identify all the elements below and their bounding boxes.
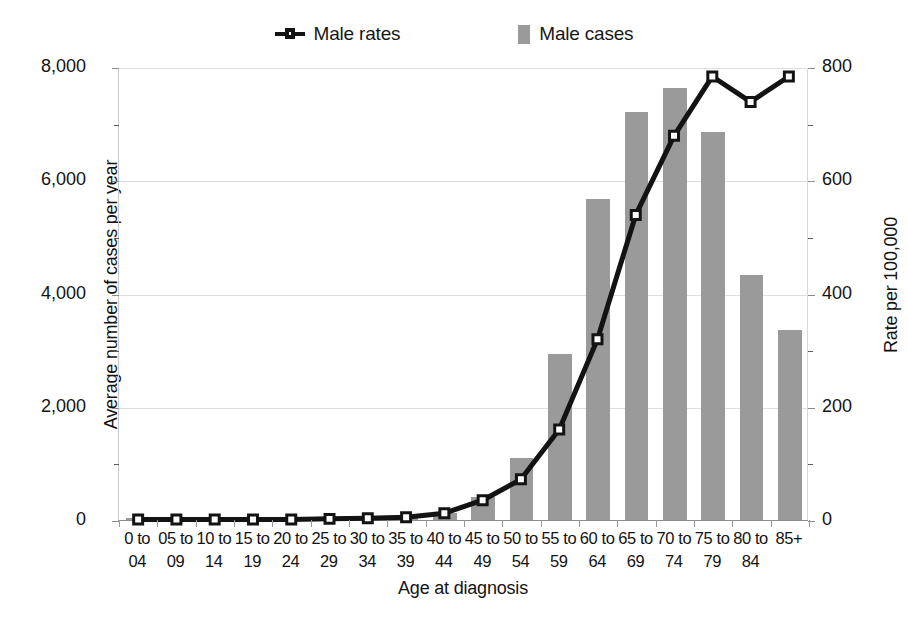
x-tickmark (541, 520, 542, 527)
y-axis-right-tick-label: 800 (822, 56, 852, 77)
y-tickmark-right (808, 408, 815, 409)
x-tick-label: 45 to49 (463, 527, 501, 573)
x-tickmark (349, 520, 350, 527)
x-tick-label: 10 to14 (195, 527, 233, 573)
x-tick-label: 25 to29 (310, 527, 348, 573)
x-tick-label-line1: 30 to (348, 527, 386, 550)
line-marker (172, 515, 181, 524)
x-tick-label: 65 to69 (616, 527, 654, 573)
x-tick-label-line1: 40 to (425, 527, 463, 550)
line-marker-icon (275, 27, 305, 41)
x-tick-label-line1: 80 to (731, 527, 769, 550)
y-tickmark-right (808, 521, 815, 522)
x-tick-label-line1: 60 to (578, 527, 616, 550)
x-tick-label-line1: 65 to (616, 527, 654, 550)
line-marker (478, 496, 487, 505)
x-tick-label-line1: 25 to (310, 527, 348, 550)
legend-label-male-cases: Male cases (539, 23, 633, 45)
y-axis-right-title: Rate per 100,000 (880, 120, 902, 450)
line-marker (670, 131, 679, 140)
legend-item-male-cases: Male cases (518, 23, 633, 45)
y-minor-tickmark-left (114, 238, 119, 239)
x-tick-label-line1: 55 to (540, 527, 578, 550)
x-tick-label-line1: 20 to (271, 527, 309, 550)
x-axis-tick-labels: 0 to0405 to0910 to1415 to1920 to2425 to2… (118, 527, 808, 575)
x-tick-label: 50 to54 (501, 527, 539, 573)
x-tick-label-line1: 10 to (195, 527, 233, 550)
x-tick-label-line2: 49 (463, 550, 501, 573)
y-tickmark-right (808, 295, 815, 296)
x-tickmark (426, 520, 427, 527)
x-tick-label-line2: 44 (425, 550, 463, 573)
x-tick-label-line1: 70 to (655, 527, 693, 550)
y-minor-tickmark-left (114, 351, 119, 352)
line-marker (708, 72, 717, 81)
y-axis-right-tick-label: 0 (822, 509, 832, 530)
x-tickmark (311, 520, 312, 527)
x-tick-label: 30 to34 (348, 527, 386, 573)
x-tickmark (272, 520, 273, 527)
line-marker (440, 509, 449, 518)
x-tick-label-line1: 05 to (156, 527, 194, 550)
y-minor-tickmark-right (808, 125, 813, 126)
x-tickmark (157, 520, 158, 527)
line-marker (248, 515, 257, 524)
x-tick-label-line2: 04 (118, 550, 156, 573)
x-tick-label-line1: 75 to (693, 527, 731, 550)
y-tickmark-right (808, 68, 815, 69)
x-tick-label-line1: 15 to (233, 527, 271, 550)
plot-area (118, 68, 808, 521)
x-tick-label-line1: 35 to (386, 527, 424, 550)
x-tickmark (196, 520, 197, 527)
legend-label-male-rates: Male rates (314, 23, 401, 45)
x-tickmark (656, 520, 657, 527)
y-tickmark-right (808, 181, 815, 182)
y-axis-right-tick-label: 400 (822, 283, 852, 304)
x-tickmark (387, 520, 388, 527)
y-minor-tickmark-right (808, 464, 813, 465)
x-tick-label-line2: 64 (578, 550, 616, 573)
line-marker (593, 335, 602, 344)
x-tickmark (617, 520, 618, 527)
x-tick-label-line2: 54 (501, 550, 539, 573)
line-marker (516, 475, 525, 484)
line-marker (363, 514, 372, 523)
x-tick-label-line2: 29 (310, 550, 348, 573)
x-tick-label-line2: 09 (156, 550, 194, 573)
y-minor-tickmark-left (114, 125, 119, 126)
line-path (138, 76, 789, 519)
x-tickmark (771, 520, 772, 527)
y-axis-right-tick-label: 600 (822, 169, 852, 190)
x-tickmark (234, 520, 235, 527)
x-tickmark (464, 520, 465, 527)
x-tick-label: 05 to09 (156, 527, 194, 573)
x-tick-label: 0 to04 (118, 527, 156, 573)
x-axis-title: Age at diagnosis (118, 578, 808, 599)
chart-legend: Male rates Male cases (0, 18, 908, 50)
x-tickmark (119, 520, 120, 527)
x-tick-label-line1: 0 to (118, 527, 156, 550)
y-tickmark-left (112, 408, 119, 409)
x-tick-label: 60 to64 (578, 527, 616, 573)
line-marker (402, 513, 411, 522)
x-tick-label: 35 to39 (386, 527, 424, 573)
y-tickmark-left (112, 181, 119, 182)
x-tick-label: 55 to59 (540, 527, 578, 573)
y-tickmark-left (112, 68, 119, 69)
line-marker (746, 97, 755, 106)
x-tick-label: 20 to24 (271, 527, 309, 573)
line-marker (325, 514, 334, 523)
x-tick-label-line2: 34 (348, 550, 386, 573)
x-tick-label-line1: 45 to (463, 527, 501, 550)
x-tick-label-line1: 50 to (501, 527, 539, 550)
y-axis-left-tick-label: 2,000 (41, 396, 86, 417)
line-marker (134, 515, 143, 524)
x-tickmark (694, 520, 695, 527)
x-tick-label-line2: 14 (195, 550, 233, 573)
square-swatch-icon (518, 25, 530, 44)
y-axis-left-tick-label: 8,000 (41, 56, 86, 77)
x-tickmark (502, 520, 503, 527)
y-axis-left-tick-label: 6,000 (41, 169, 86, 190)
x-tick-label: 85+ (770, 527, 808, 550)
x-tickmark (579, 520, 580, 527)
